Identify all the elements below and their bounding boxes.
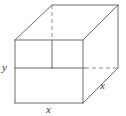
dimension-label-x-right: x — [100, 80, 105, 91]
geometry-figure: y x x — [0, 0, 126, 116]
dimension-label-y: y — [2, 62, 7, 73]
cube-wireframe-svg — [0, 0, 126, 116]
edge-connector-top-left — [15, 5, 52, 40]
dimension-label-x-bottom: x — [46, 104, 51, 115]
edge-connector-top-right — [83, 5, 118, 40]
